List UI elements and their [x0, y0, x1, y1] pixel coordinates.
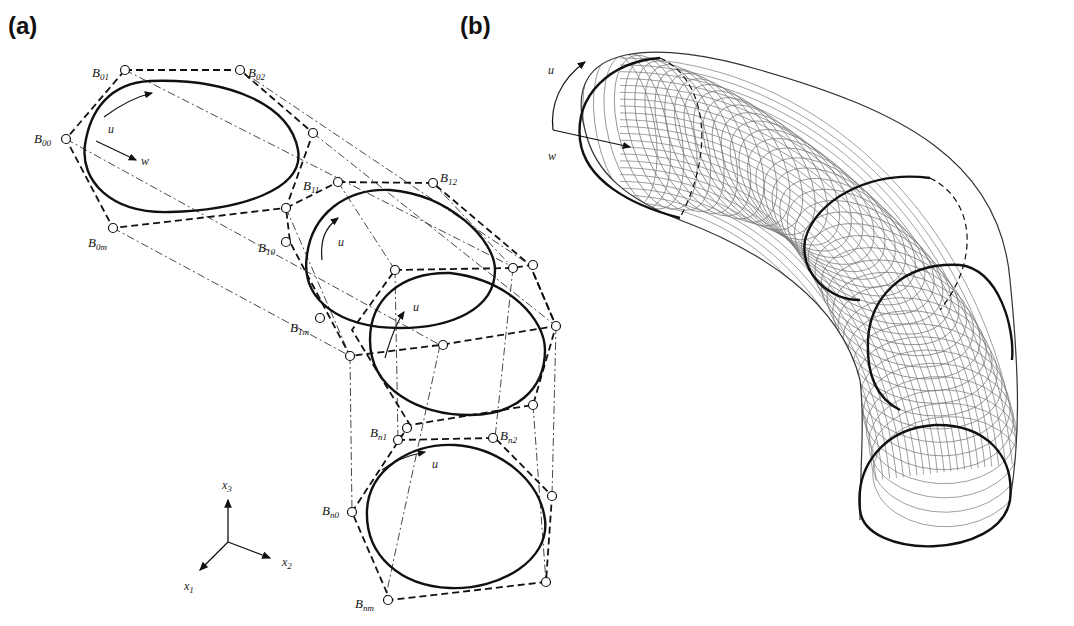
figure-canvas: B01 B02 B00 B0m B11 B12 B10 B1m Bn1 Bn2 …	[0, 0, 1074, 626]
svg-text:u: u	[338, 235, 344, 249]
svg-text:B12: B12	[440, 170, 457, 187]
svg-text:u: u	[413, 300, 419, 314]
svg-text:u: u	[548, 63, 554, 77]
svg-text:u: u	[432, 457, 438, 471]
svg-text:x3: x3	[221, 478, 232, 494]
svg-text:B02: B02	[248, 65, 265, 82]
svg-text:Bn1: Bn1	[370, 425, 387, 442]
svg-text:Bn0: Bn0	[322, 503, 339, 520]
cross-section-curves	[84, 81, 545, 588]
svg-text:B01: B01	[92, 65, 109, 82]
control-point-labels: B01 B02 B00 B0m B11 B12 B10 B1m Bn1 Bn2 …	[34, 65, 517, 613]
svg-text:w: w	[548, 149, 556, 163]
svg-text:B11: B11	[303, 178, 319, 195]
svg-text:B10: B10	[258, 240, 275, 257]
svg-text:u: u	[108, 122, 114, 136]
svg-text:B1m: B1m	[290, 320, 309, 337]
svg-text:B00: B00	[34, 131, 51, 148]
param-arrows	[96, 93, 425, 470]
panel-b-tube-surface: u w	[548, 45, 1025, 547]
svg-text:Bnm: Bnm	[355, 596, 374, 613]
svg-text:B0m: B0m	[88, 235, 107, 252]
svg-text:x1: x1	[183, 579, 194, 595]
svg-text:Bn2: Bn2	[500, 428, 517, 445]
tube-cross-sections	[580, 58, 1013, 546]
axes-triad	[200, 500, 270, 570]
panel-a-diagram	[62, 66, 561, 605]
guide-lines	[66, 70, 556, 600]
svg-text:w: w	[141, 154, 149, 168]
svg-text:x2: x2	[281, 555, 292, 571]
